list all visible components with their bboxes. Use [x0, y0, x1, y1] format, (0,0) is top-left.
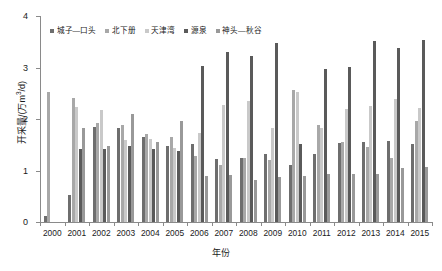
bar [401, 168, 404, 222]
bar [303, 176, 306, 222]
legend-item[interactable]: 城子—口头 [50, 27, 96, 35]
x-axis-tick-label: 2008 [239, 228, 258, 238]
x-axis-tick-label: 2010 [288, 228, 307, 238]
legend-label: 天津湾 [151, 27, 175, 35]
bar [82, 128, 85, 222]
x-axis-tick-label: 2005 [165, 228, 184, 238]
bar [327, 174, 330, 222]
x-axis-tick [359, 222, 360, 226]
legend-swatch-icon [145, 29, 149, 33]
bar [254, 180, 257, 222]
legend-swatch-icon [105, 29, 109, 33]
x-axis-title: 年份 [0, 246, 442, 259]
x-axis-tick [261, 222, 262, 226]
bar [229, 175, 232, 222]
x-axis-tick-label: 2003 [116, 228, 135, 238]
x-axis-tick [65, 222, 66, 226]
bar-chart: 开采量/(万m3/d) 0123420002001200220032004200… [0, 0, 442, 271]
bar [352, 174, 355, 222]
plot-area: 0123420002001200220032004200520062007200… [40, 16, 432, 222]
y-axis-tick-label: 1 [23, 166, 28, 176]
y-axis-tick-label: 2 [23, 114, 28, 124]
y-axis-tick [36, 16, 40, 17]
x-axis-tick-label: 2006 [190, 228, 209, 238]
x-axis-tick-label: 2009 [263, 228, 282, 238]
x-axis-tick-label: 2004 [141, 228, 160, 238]
y-axis-tick [36, 119, 40, 120]
x-axis-tick-label: 2007 [214, 228, 233, 238]
x-axis-tick [432, 222, 433, 226]
x-axis-tick-label: 2015 [410, 228, 429, 238]
legend-label: 城子—口头 [57, 27, 97, 35]
x-axis-tick-label: 2002 [92, 228, 111, 238]
bar [131, 114, 134, 222]
bar [425, 167, 428, 222]
bar [47, 92, 50, 222]
x-axis-tick [383, 222, 384, 226]
x-axis-tick [212, 222, 213, 226]
bar [278, 177, 281, 222]
x-axis-tick-label: 2000 [43, 228, 62, 238]
x-axis-tick-label: 2011 [313, 228, 331, 238]
legend-swatch-icon [184, 29, 188, 33]
x-axis-tick [89, 222, 90, 226]
x-axis-tick [163, 222, 164, 226]
bar [376, 174, 379, 222]
y-axis-title-suffix: /d) [17, 81, 27, 92]
x-axis-tick-label: 2014 [386, 228, 405, 238]
bar [205, 176, 208, 222]
y-axis-tick-label: 4 [23, 11, 28, 21]
x-axis-tick [114, 222, 115, 226]
legend-swatch-icon [216, 29, 220, 33]
legend-item[interactable]: 北下册 [105, 27, 136, 35]
y-axis-tick-label: 0 [23, 217, 28, 227]
legend-swatch-icon [50, 29, 54, 33]
legend-label: 源泉 [191, 27, 207, 35]
x-axis-tick-label: 2013 [361, 228, 380, 238]
x-axis-tick [40, 222, 41, 226]
y-axis-title-superscript: 3 [15, 91, 22, 95]
x-axis-tick [334, 222, 335, 226]
y-axis-tick-label: 3 [23, 63, 28, 73]
bar [156, 142, 159, 222]
legend-label: 神头—秋谷 [222, 27, 262, 35]
y-axis-tick [36, 171, 40, 172]
x-axis-tick [285, 222, 286, 226]
bar [180, 121, 183, 222]
x-axis-tick [236, 222, 237, 226]
legend-item[interactable]: 天津湾 [145, 27, 176, 35]
x-axis-tick [310, 222, 311, 226]
x-axis-tick [138, 222, 139, 226]
chart-legend: 城子—口头北下册天津湾源泉神头—秋谷 [50, 27, 262, 35]
x-axis-tick [187, 222, 188, 226]
x-axis-tick-label: 2001 [67, 228, 86, 238]
x-axis-tick-label: 2012 [337, 228, 356, 238]
legend-item[interactable]: 神头—秋谷 [216, 27, 262, 35]
legend-item[interactable]: 源泉 [184, 27, 207, 35]
bar [107, 146, 110, 222]
y-axis-line [40, 16, 41, 222]
y-axis-tick [36, 68, 40, 69]
x-axis-tick [408, 222, 409, 226]
legend-label: 北下册 [112, 27, 136, 35]
